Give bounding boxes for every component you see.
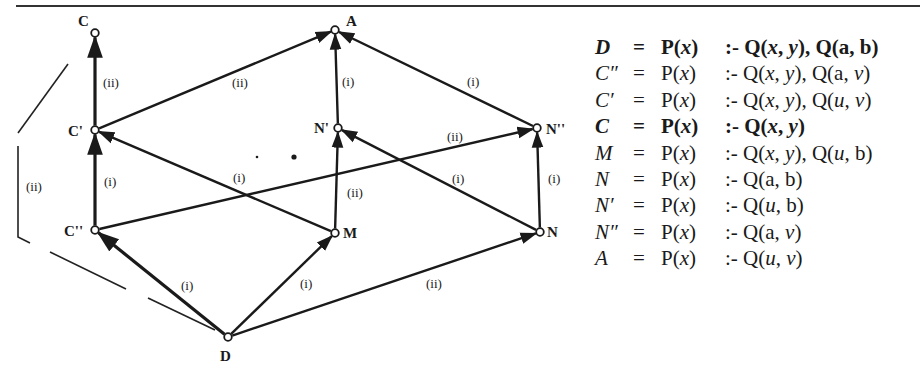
equals-sign: = <box>633 245 661 271</box>
dot-mark <box>256 156 259 159</box>
stray-dots <box>256 154 297 159</box>
edge-D-to-N <box>232 233 535 335</box>
edge-label: (i) <box>104 174 116 189</box>
side-bracket-label: (ii) <box>26 179 42 194</box>
formula-body: :- Q(a, b) <box>725 166 803 192</box>
formula-name: C <box>595 113 633 139</box>
formula-body: :- Q(a, v) <box>725 219 801 245</box>
formula-name: M <box>595 140 633 166</box>
formula-head: P(x) <box>661 166 725 192</box>
formula-head: P(x) <box>661 245 725 271</box>
node-N <box>536 228 544 236</box>
formula-name: D <box>595 34 633 60</box>
formula-list: D=P(x):- Q(x, y), Q(a, b)C″=P(x):- Q(x, … <box>595 34 878 272</box>
formula-name: N <box>595 166 633 192</box>
formula-head: P(x) <box>661 219 725 245</box>
edge-label: (i) <box>342 74 354 89</box>
formula-name: A <box>595 245 633 271</box>
formula-name: N″ <box>595 219 633 245</box>
edge-C2-to-N2 <box>99 129 532 229</box>
formula-body: :- Q(x, y) <box>725 113 805 139</box>
node-A <box>331 26 339 34</box>
formula-row: N′=P(x):- Q(u, b) <box>595 192 878 218</box>
formula-row: D=P(x):- Q(x, y), Q(a, b) <box>595 34 878 60</box>
formula-row: N″=P(x):- Q(a, v) <box>595 219 878 245</box>
formula-head: P(x) <box>661 60 725 86</box>
edge-label: (i) <box>300 276 312 291</box>
edge-label: (i) <box>233 170 245 185</box>
formula-row: A=P(x):- Q(u, v) <box>595 245 878 271</box>
formula-name: C″ <box>595 60 633 86</box>
formula-body: :- Q(u, v) <box>725 245 803 271</box>
node-C <box>91 29 99 37</box>
equals-sign: = <box>633 219 661 245</box>
edge-C1-to-A <box>99 32 331 129</box>
edge-D-to-C2 <box>99 233 225 334</box>
equals-sign: = <box>633 87 661 113</box>
formula-head: P(x) <box>661 113 725 139</box>
edge-label: (ii) <box>347 185 363 200</box>
equals-sign: = <box>633 192 661 218</box>
node-D <box>224 333 232 341</box>
edge-label: (i) <box>181 278 193 293</box>
formula-row: M=P(x):- Q(x, y), Q(u, b) <box>595 140 878 166</box>
node-label: C <box>78 13 89 29</box>
edge-label: (ii) <box>447 129 463 144</box>
node-label-group: CC'C''DMN'AN''N <box>64 13 565 364</box>
node-N2 <box>533 124 541 132</box>
equals-sign: = <box>633 34 661 60</box>
node-label: N <box>547 224 558 240</box>
formula-row: N=P(x):- Q(a, b) <box>595 166 878 192</box>
node-label: C'' <box>64 223 83 239</box>
equals-sign: = <box>633 113 661 139</box>
edge-N-to-N1 <box>342 130 536 230</box>
edge-label: (ii) <box>232 75 248 90</box>
formula-body: :- Q(u, b) <box>725 192 804 218</box>
edge-N1-to-A <box>335 34 338 123</box>
formula-body: :- Q(x, y), Q(a, b) <box>725 34 878 60</box>
formula-name: N′ <box>595 192 633 218</box>
formula-name: C′ <box>595 87 633 113</box>
formula-head: P(x) <box>661 87 725 113</box>
edge-label: (ii) <box>426 276 442 291</box>
equals-sign: = <box>633 60 661 86</box>
formula-row: C=P(x):- Q(x, y) <box>595 113 878 139</box>
formula-row: C″=P(x):- Q(x, y), Q(a, v) <box>595 60 878 86</box>
edge-label: (i) <box>452 171 464 186</box>
dot-mark <box>291 154 296 159</box>
equals-sign: = <box>633 140 661 166</box>
formula-head: P(x) <box>661 140 725 166</box>
edge-M-to-C1 <box>99 132 331 231</box>
node-label: N'' <box>546 121 565 137</box>
formula-row: C′=P(x):- Q(x, y), Q(u, v) <box>595 87 878 113</box>
node-label: C' <box>68 123 83 139</box>
node-N1 <box>334 124 342 132</box>
formula-body: :- Q(x, y), Q(u, v) <box>725 87 871 113</box>
formula-head: P(x) <box>661 34 725 60</box>
node-label: D <box>220 348 231 364</box>
formula-body: :- Q(x, y), Q(a, v) <box>725 60 870 86</box>
node-C2 <box>91 226 99 234</box>
edge-label: (i) <box>467 74 479 89</box>
lattice-diagram: (ii) (ii)(i)(i)(i)(ii)(ii)(i)(ii)(ii)(i)… <box>0 0 580 367</box>
node-label: A <box>346 13 357 29</box>
edge-label: (ii) <box>103 75 119 90</box>
node-C1 <box>91 126 99 134</box>
edge-M-to-N1 <box>335 132 338 228</box>
edge-label: (i) <box>548 171 560 186</box>
formula-body: :- Q(x, y), Q(u, b) <box>725 140 873 166</box>
node-label: M <box>343 225 357 241</box>
edge-N-to-N2 <box>537 132 540 227</box>
formula-head: P(x) <box>661 192 725 218</box>
edge-N2-to-A <box>339 32 533 126</box>
node-label: N' <box>314 120 329 136</box>
equals-sign: = <box>633 166 661 192</box>
node-M <box>331 229 339 237</box>
